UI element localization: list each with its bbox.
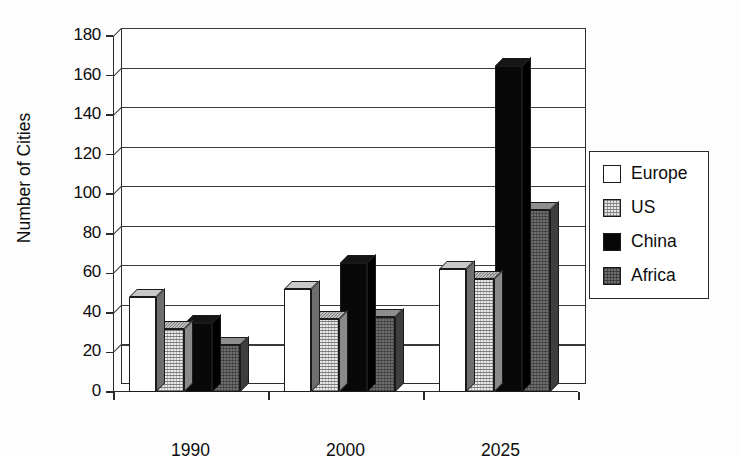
y-tick-label: 140: [41, 104, 101, 124]
y-tick-mark: [106, 312, 113, 314]
y-tick-mark: [106, 193, 113, 195]
y-tick-mark: [106, 154, 113, 156]
bar-side-face: [466, 260, 475, 392]
bar-side-face: [311, 280, 320, 392]
bar-side-face: [395, 308, 404, 392]
y-tick-label: 100: [41, 183, 101, 203]
plot-area: 199020002025: [113, 36, 578, 392]
y-tick-label: 20: [41, 341, 101, 361]
legend-label-china: China: [631, 231, 677, 252]
bar-side-face: [212, 314, 221, 392]
bar-side-face: [494, 270, 503, 392]
legend-swatch-europe: [603, 165, 621, 183]
bar-europe-1990: [129, 297, 156, 392]
y-tick-label: 180: [41, 25, 101, 45]
bar-front-face: [439, 269, 466, 392]
bar-front-face: [129, 297, 156, 392]
x-tick-mark: [268, 392, 270, 400]
x-tick-label: 1990: [113, 440, 268, 456]
bar-side-face: [184, 320, 193, 392]
y-tick-label: 0: [41, 381, 101, 401]
y-tick-label: 120: [41, 144, 101, 164]
x-tick-mark: [113, 392, 115, 400]
legend-label-us: US: [631, 197, 655, 218]
y-tick-mark: [106, 352, 113, 354]
bar-side-face: [240, 336, 249, 392]
y-tick-mark: [106, 114, 113, 116]
y-tick-mark: [106, 233, 113, 235]
gridline: [121, 28, 586, 29]
x-tick-mark: [578, 392, 580, 400]
bar-side-face: [339, 310, 348, 392]
legend-item: Europe: [603, 163, 687, 184]
bar-side-face: [367, 254, 376, 392]
legend-swatch-us: [603, 199, 621, 217]
legend-item: Africa: [603, 265, 676, 286]
bar-europe-2000: [284, 289, 311, 392]
legend-swatch-africa: [603, 267, 621, 285]
x-tick-label: 2025: [423, 440, 578, 456]
figure-canvas: Number of Cities 199020002025 0204060801…: [0, 0, 739, 456]
y-tick-mark: [106, 35, 113, 37]
x-tick-mark: [423, 392, 425, 400]
y-tick-label: 160: [41, 65, 101, 85]
bar-side-face: [522, 57, 531, 392]
y-axis-title: Number of Cities: [14, 0, 35, 356]
y-tick-mark: [106, 391, 113, 393]
bar-side-face: [156, 288, 165, 392]
y-tick-label: 60: [41, 262, 101, 282]
legend-item: US: [603, 197, 655, 218]
bar-europe-2025: [439, 269, 466, 392]
y-tick-mark: [106, 273, 113, 275]
bar-side-face: [550, 201, 559, 392]
y-tick-mark: [106, 75, 113, 77]
y-tick-label: 80: [41, 223, 101, 243]
legend-swatch-china: [603, 233, 621, 251]
chart-legend: Europe US China Africa: [589, 151, 709, 299]
y-tick-label: 40: [41, 302, 101, 322]
legend-label-africa: Africa: [631, 265, 676, 286]
bar-front-face: [284, 289, 311, 392]
legend-label-europe: Europe: [631, 163, 687, 184]
x-tick-label: 2000: [268, 440, 423, 456]
legend-item: China: [603, 231, 677, 252]
